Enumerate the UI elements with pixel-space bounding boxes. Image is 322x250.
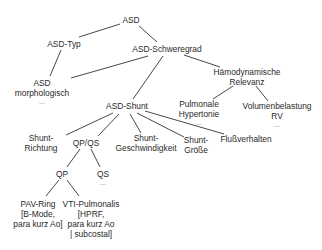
node-pulmonale-hypertonie-line-2: Hypertonie	[179, 109, 220, 119]
node-qp: QP	[56, 169, 68, 179]
node-asd-morphologisch-ellipsis: ...	[15, 98, 69, 106]
node-pulmonale-hypertonie: Pulmonale Hypertonie ...	[179, 99, 220, 127]
edge-asd-schweregrad	[139, 26, 157, 42]
edge-qp-vti	[67, 180, 79, 196]
node-qs-ellipsis: ...	[97, 179, 109, 187]
edge-schweregrad-relevanz	[184, 55, 220, 67]
node-vti-pulmonalis-line-1: VTI-Pulmonalis	[63, 199, 120, 209]
edge-schweregrad-shunt	[133, 56, 163, 99]
node-pulmonale-hypertonie-line-1: Pulmonale	[179, 99, 220, 109]
node-asd-morphologisch: ASD morphologisch ...	[15, 78, 69, 106]
edge-shunt-richtung	[66, 113, 113, 135]
edge-qpqs-qs	[91, 149, 100, 167]
node-shunt-richtung-line-1: Shunt-	[24, 133, 57, 143]
node-volumenbelastung-rv: Volumenbelastung RV ...	[243, 101, 312, 129]
node-shunt-richtung-line-2: Richtung	[24, 143, 57, 153]
node-qs: QS ...	[97, 169, 109, 187]
node-shunt-geschwindigkeit: Shunt- Geschwindigkeit	[116, 133, 177, 153]
node-vti-pulmonalis-line-3: para kurz Ao	[63, 219, 120, 229]
node-volumenbelastung-rv-line-2: RV	[243, 111, 312, 121]
node-asd-shunt: ASD-Shunt	[106, 101, 148, 111]
node-shunt-richtung: Shunt- Richtung	[24, 133, 57, 153]
node-shunt-geschwindigkeit-line-2: Geschwindigkeit	[116, 143, 177, 153]
node-asd-typ: ASD-Typ	[47, 39, 81, 49]
edge-qp-pav	[46, 180, 59, 196]
node-pulmonale-hypertonie-ellipsis: ...	[179, 119, 220, 127]
node-pav-ring: PAV-Ring [B-Mode, para kurz Ao]	[13, 199, 62, 229]
node-asd-shunt-label: ASD-Shunt	[106, 101, 148, 111]
node-asd-morphologisch-line-1: ASD	[15, 78, 69, 88]
edge-relevanz-pulmonale	[213, 86, 233, 99]
node-haemodynamische-relevanz-line-1: Hämodynamische	[213, 67, 280, 77]
node-haemodynamische-relevanz: Hämodynamische Relevanz	[213, 67, 280, 87]
edge-asd-typ-morphologisch	[50, 50, 61, 76]
node-qp-label: QP	[56, 169, 68, 179]
node-shunt-geschwindigkeit-line-1: Shunt-	[116, 133, 177, 143]
node-volumenbelastung-rv-ellipsis: ...	[243, 121, 312, 129]
edge-shunt-geschwindigkeit	[130, 114, 141, 133]
node-pav-ring-line-2: [B-Mode,	[13, 209, 62, 219]
node-haemodynamische-relevanz-line-2: Relevanz	[213, 77, 280, 87]
node-asd-typ-label: ASD-Typ	[47, 39, 81, 49]
node-pav-ring-line-3: para kurz Ao]	[13, 219, 62, 229]
edge-qpqs-qp	[67, 149, 80, 167]
node-volumenbelastung-rv-line-1: Volumenbelastung	[243, 101, 312, 111]
asd-tree-diagram: ASD ASD-Typ ASD-Schweregrad ASD morpholo…	[0, 0, 322, 250]
node-asd-schweregrad: ASD-Schweregrad	[132, 44, 201, 54]
node-asd: ASD	[122, 15, 139, 25]
node-shunt-groesse: Shunt- Größe	[184, 135, 209, 155]
node-qs-label: QS	[97, 169, 109, 179]
node-vti-pulmonalis-line-4: | subcostal]	[63, 229, 120, 239]
node-pav-ring-line-1: PAV-Ring	[13, 199, 62, 209]
node-shunt-groesse-line-2: Größe	[184, 145, 209, 155]
node-qp-qs: QP/QS	[73, 138, 100, 148]
node-asd-morphologisch-line-2: morphologisch	[15, 88, 69, 98]
edge-schweregrad-morphologisch	[71, 56, 148, 78]
node-asd-schweregrad-label: ASD-Schweregrad	[132, 44, 201, 54]
node-vti-pulmonalis: VTI-Pulmonalis [HPRF, para kurz Ao | sub…	[63, 199, 120, 239]
node-shunt-groesse-line-1: Shunt-	[184, 135, 209, 145]
node-flussverhalten-label: Flußverhalten	[220, 134, 271, 144]
node-qp-qs-label: QP/QS	[73, 138, 100, 148]
node-vti-pulmonalis-line-2: [HPRF,	[63, 209, 120, 219]
edge-relevanz-volumen	[256, 86, 268, 101]
node-asd-label: ASD	[122, 15, 139, 25]
edge-asd-asd-typ	[79, 24, 120, 37]
node-flussverhalten: Flußverhalten	[220, 134, 271, 144]
